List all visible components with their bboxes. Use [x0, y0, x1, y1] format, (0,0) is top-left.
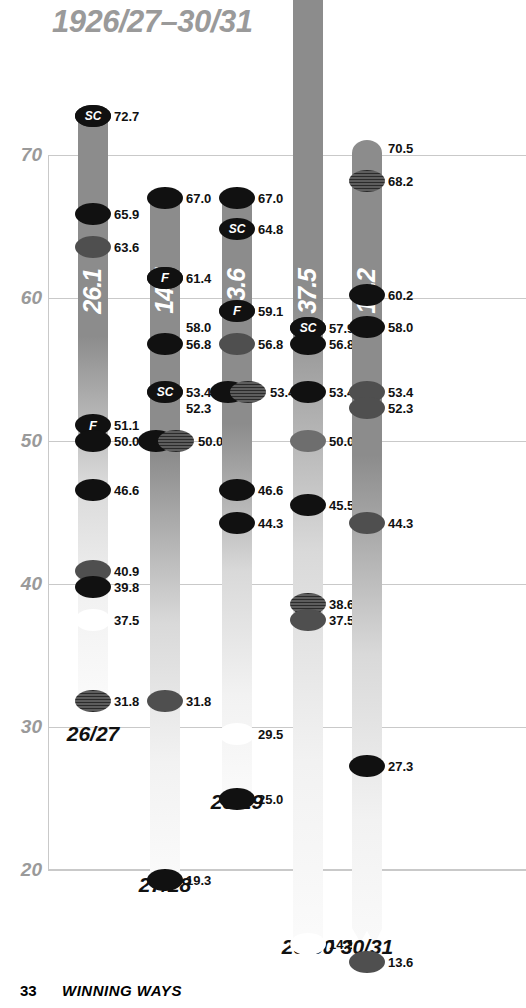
data-point-label-67.0: 67.0: [258, 191, 283, 206]
bar-27-28[interactable]: 14.7: [150, 190, 180, 888]
data-point-label-40.9: 40.9: [114, 564, 139, 579]
data-point-label-31.8: 31.8: [186, 694, 211, 709]
y-tick-label-50: 50: [0, 430, 42, 452]
data-point-39.8[interactable]: [75, 576, 111, 598]
badge-text: SC: [75, 105, 111, 127]
data-point-58.0[interactable]: [349, 316, 385, 338]
data-point-37.5[interactable]: [75, 609, 111, 631]
data-point-50.0[interactable]: [158, 430, 194, 452]
badge-text: SC: [219, 218, 255, 240]
data-point-label-67.0: 67.0: [186, 191, 211, 206]
data-point-label-56.8: 56.8: [329, 337, 354, 352]
data-point-67.0[interactable]: [219, 187, 255, 209]
bar-value-label: 26.1: [78, 269, 108, 314]
data-point-label-51.1: 51.1: [114, 418, 139, 433]
y-tick-label-20: 20: [0, 859, 42, 881]
data-point-label-46.6: 46.6: [258, 483, 283, 498]
data-point-label-31.8: 31.8: [114, 694, 139, 709]
bar-fill: [352, 140, 382, 970]
data-point-52.3[interactable]: [349, 397, 385, 419]
data-point-label-37.5: 37.5: [329, 613, 354, 628]
badge-text: F: [219, 300, 255, 322]
data-point-46.6[interactable]: [219, 479, 255, 501]
y-tick-label-40: 40: [0, 573, 42, 595]
data-point-label-56.8: 56.8: [186, 337, 211, 352]
data-point-44.3[interactable]: [349, 512, 385, 534]
bar-30-31[interactable]: 18.2: [352, 140, 382, 970]
data-point-label-68.2: 68.2: [388, 174, 413, 189]
data-point-label-60.2: 60.2: [388, 288, 413, 303]
data-point-label-56.8: 56.8: [258, 337, 283, 352]
data-point-56.8[interactable]: [290, 333, 326, 355]
data-point-label-19.3: 19.3: [186, 873, 211, 888]
data-point-29.5[interactable]: [219, 723, 255, 745]
data-point-27.3[interactable]: [349, 755, 385, 777]
data-point-label-72.7: 72.7: [114, 109, 139, 124]
data-point-65.9[interactable]: [75, 203, 111, 225]
page-footer: 33 WINNING WAYS: [0, 982, 526, 1008]
data-point-label-53.4: 53.4: [388, 385, 413, 400]
data-point-label-58.0: 58.0: [186, 320, 211, 335]
bar-29-30[interactable]: 37.5: [293, 0, 323, 952]
data-point-label-27.3: 27.3: [388, 759, 413, 774]
data-point-label-38.6: 38.6: [329, 597, 354, 612]
data-point-badge-sc-72.7[interactable]: SC: [75, 105, 111, 127]
plot-frame: [48, 155, 526, 870]
data-point-label-63.6: 63.6: [114, 240, 139, 255]
data-point-label-44.3: 44.3: [258, 516, 283, 531]
data-point-label-64.8: 64.8: [258, 222, 283, 237]
data-point-19.3[interactable]: [147, 869, 183, 891]
data-point-label-50.0: 50.0: [198, 434, 223, 449]
data-point-60.2[interactable]: [349, 284, 385, 306]
gridline-60: [48, 298, 526, 299]
data-point-label-45.5: 45.5: [329, 498, 354, 513]
y-tick-label-60: 60: [0, 287, 42, 309]
data-point-44.3[interactable]: [219, 512, 255, 534]
data-point-label-50.0: 50.0: [114, 434, 139, 449]
data-point-label-53.4: 53.4: [186, 385, 211, 400]
data-point-46.6[interactable]: [75, 479, 111, 501]
data-point-badge-f-61.4[interactable]: F: [147, 267, 183, 289]
data-point-13.6[interactable]: [349, 951, 385, 973]
data-point-label-39.8: 39.8: [114, 580, 139, 595]
badge-text: F: [147, 267, 183, 289]
data-point-63.6[interactable]: [75, 236, 111, 258]
y-tick-label-30: 30: [0, 716, 42, 738]
data-point-25.0[interactable]: [219, 788, 255, 810]
data-point-37.5[interactable]: [290, 609, 326, 631]
data-point-56.8[interactable]: [219, 333, 255, 355]
data-point-label-44.3: 44.3: [388, 516, 413, 531]
data-point-label-50.0: 50.0: [329, 434, 354, 449]
data-point-50.0[interactable]: [75, 430, 111, 452]
footer-title: WINNING WAYS: [62, 982, 182, 999]
data-point-label-52.3: 52.3: [186, 401, 211, 416]
data-point-label-37.5: 37.5: [114, 613, 139, 628]
data-point-label-52.3: 52.3: [388, 401, 413, 416]
badge-text: SC: [147, 381, 183, 403]
data-point-label-70.5: 70.5: [388, 141, 413, 156]
bar-fill: [293, 0, 323, 952]
data-point-badge-f-59.1[interactable]: F: [219, 300, 255, 322]
gridline-20: [48, 870, 526, 871]
data-point-label-61.4: 61.4: [186, 271, 211, 286]
data-point-label-65.9: 65.9: [114, 207, 139, 222]
category-label-26-27: 26/27: [48, 722, 138, 746]
data-point-label-25.0: 25.0: [258, 792, 283, 807]
data-point-56.8[interactable]: [147, 333, 183, 355]
data-point-badge-sc-64.8[interactable]: SC: [219, 218, 255, 240]
data-point-label-46.6: 46.6: [114, 483, 139, 498]
gridline-70: [48, 155, 526, 156]
data-point-badge-sc-53.4[interactable]: SC: [147, 381, 183, 403]
bar-value-label: 37.5: [293, 269, 323, 314]
data-point-67.0[interactable]: [147, 187, 183, 209]
data-point-label-29.5: 29.5: [258, 727, 283, 742]
footer-page-number: 33: [20, 982, 37, 999]
data-point-50.0[interactable]: [290, 430, 326, 452]
data-point-68.2[interactable]: [349, 170, 385, 192]
chart-canvas: 1926/27–30/31 706050403020 26.126/27SC72…: [0, 0, 526, 1008]
data-point-label-59.1: 59.1: [258, 304, 283, 319]
page-title: 1926/27–30/31: [52, 4, 252, 40]
data-point-label-58.0: 58.0: [388, 320, 413, 335]
data-point-label-13.6: 13.6: [388, 955, 413, 970]
y-tick-label-70: 70: [0, 144, 42, 166]
